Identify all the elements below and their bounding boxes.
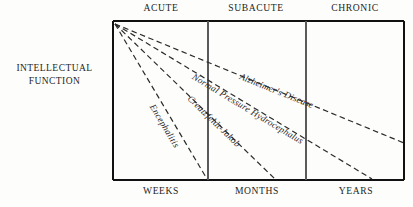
time-label-weeks: WEEKS <box>143 185 179 196</box>
diagram-figure: INTELLECTUAL FUNCTION ACUTESUBACUTECHRON… <box>0 0 413 207</box>
phase-label-subacute: SUBACUTE <box>228 2 283 13</box>
time-label-years: YEARS <box>339 185 373 196</box>
decline-curves <box>115 24 404 179</box>
plot-frame <box>113 21 404 180</box>
phase-label-chronic: CHRONIC <box>331 2 378 13</box>
plot-area <box>0 0 413 207</box>
time-label-months: MONTHS <box>235 185 279 196</box>
phase-label-acute: ACUTE <box>144 2 179 13</box>
